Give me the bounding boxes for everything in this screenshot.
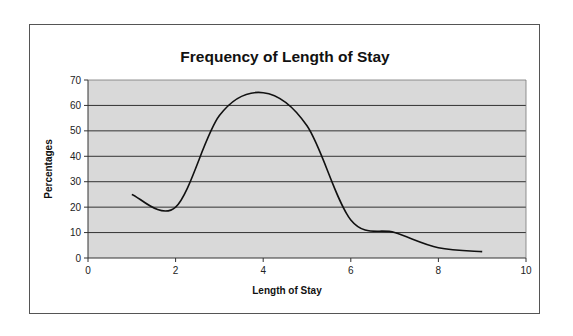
y-tick-label: 40 xyxy=(70,151,82,162)
y-tick-label: 0 xyxy=(75,253,81,264)
y-axis-ticks: 010203040506070 xyxy=(70,75,88,264)
x-axis-title: Length of Stay xyxy=(252,285,322,296)
y-tick-label: 20 xyxy=(70,202,82,213)
y-tick-label: 50 xyxy=(70,125,82,136)
y-tick-label: 70 xyxy=(70,75,82,86)
x-axis-ticks: 0246810 xyxy=(85,258,532,276)
x-tick-label: 0 xyxy=(85,265,91,276)
y-tick-label: 30 xyxy=(70,176,82,187)
y-tick-label: 10 xyxy=(70,227,82,238)
x-tick-label: 4 xyxy=(260,265,266,276)
x-tick-label: 8 xyxy=(436,265,442,276)
y-tick-label: 60 xyxy=(70,100,82,111)
line-chart: Frequency of Length of Stay 010203040506… xyxy=(0,0,573,336)
chart-title: Frequency of Length of Stay xyxy=(180,48,390,65)
x-tick-label: 2 xyxy=(173,265,179,276)
x-tick-label: 6 xyxy=(348,265,354,276)
plot-area xyxy=(88,80,526,258)
x-tick-label: 10 xyxy=(520,265,532,276)
y-axis-title: Percentages xyxy=(43,139,54,199)
